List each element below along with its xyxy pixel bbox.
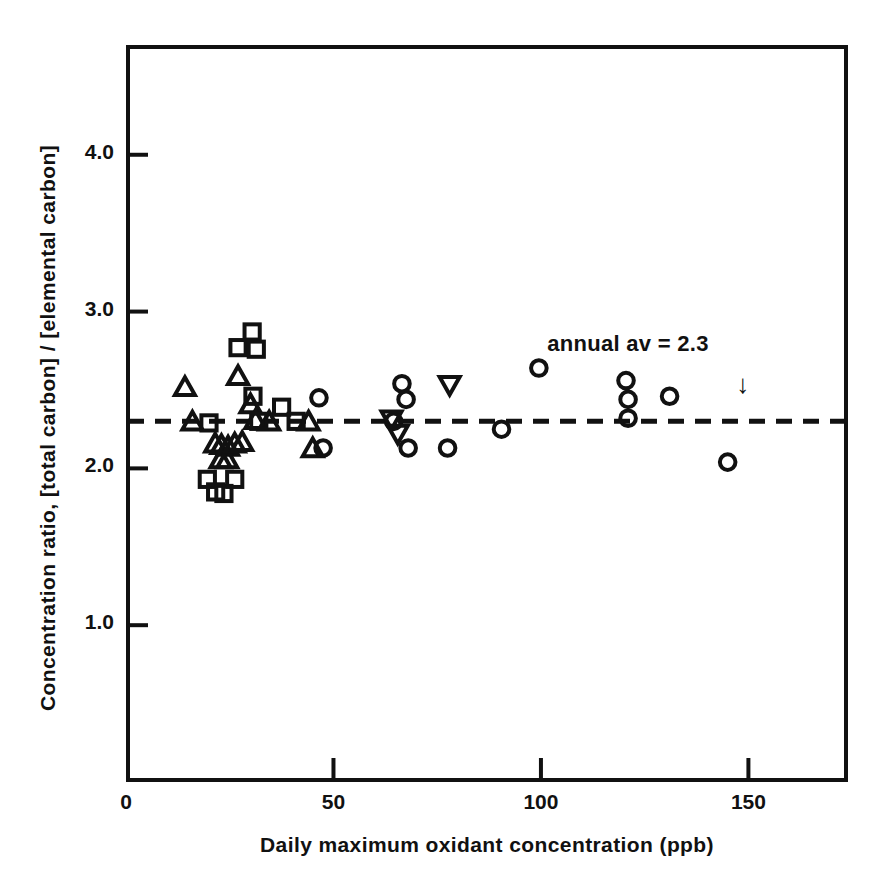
data-point-square-7 [249,342,264,357]
data-point-circle-13 [720,454,736,470]
x-axis-title: Daily maximum oxidant concentration (ppb… [126,833,848,857]
x-tick-label-3: 150 [708,790,788,814]
y-tick-label-1: 2.0 [44,453,114,477]
data-point-circle-3 [394,376,410,392]
x-tick-label-2: 100 [501,790,581,814]
data-point-circle-9 [618,373,634,389]
y-tick-label-2: 3.0 [44,297,114,321]
data-point-triangle-up-0 [175,377,195,395]
data-point-circle-8 [531,360,547,376]
data-point-circle-7 [494,421,510,437]
data-point-circle-12 [662,388,678,404]
data-point-circle-10 [620,392,636,408]
data-point-triangle-down-2 [440,377,460,395]
plot-frame [128,47,846,780]
scatter-plot-svg [126,45,848,782]
data-point-circle-6 [440,440,456,456]
data-point-square-5 [230,340,245,355]
down-arrow-icon: ↓ [736,369,749,400]
reference-line-annotation: annual av = 2.3 [547,331,709,357]
data-point-circle-0 [311,390,327,406]
data-point-square-6 [245,324,260,339]
data-point-triangle-up-9 [228,366,248,384]
figure-root: Concentration ratio, [total carbon] / [e… [0,0,883,884]
x-tick-label-0: 0 [86,790,166,814]
data-point-circle-5 [400,440,416,456]
y-tick-label-3: 4.0 [44,140,114,164]
data-point-circle-4 [398,392,414,408]
y-axis-title: Concentration ratio, [total carbon] / [e… [36,98,60,758]
y-tick-label-0: 1.0 [44,610,114,634]
x-tick-label-1: 50 [293,790,373,814]
plot-area [126,45,848,782]
